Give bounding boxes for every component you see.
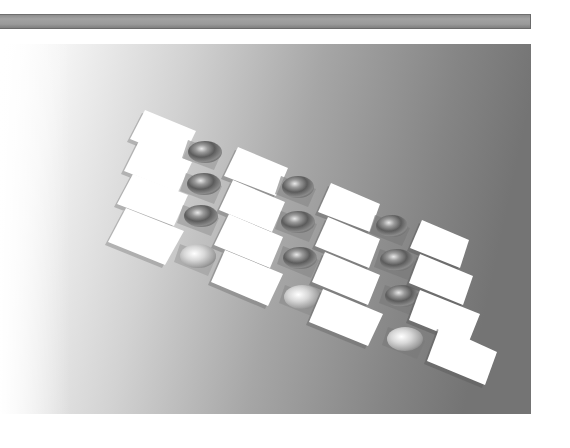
scene-canvas — [0, 44, 531, 414]
sphere — [376, 215, 408, 237]
sphere — [282, 176, 314, 198]
sphere — [188, 141, 222, 163]
sphere — [380, 249, 414, 271]
sphere — [283, 247, 317, 269]
rendered-scene — [0, 44, 531, 414]
sphere — [187, 173, 221, 195]
sphere — [387, 327, 423, 351]
sphere — [281, 211, 315, 233]
sphere — [184, 205, 218, 227]
header-bar — [0, 14, 531, 29]
background-left-fade — [0, 44, 70, 414]
sphere — [180, 244, 216, 268]
